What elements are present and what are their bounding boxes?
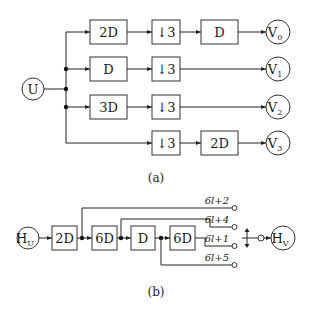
tap-label: 6l+2 bbox=[205, 195, 229, 206]
figure-b: HU 2D 6D D 6D 6l+2 6l+4 6l+1 6l+5 bbox=[16, 195, 295, 299]
block-label: 6D bbox=[173, 231, 192, 246]
downsampler-label: ↓3 bbox=[156, 25, 175, 40]
tap-label: 6l+4 bbox=[205, 214, 229, 225]
caption-b: (b) bbox=[147, 285, 164, 299]
downsampler-label: ↓3 bbox=[156, 62, 175, 77]
input-node-label: U bbox=[28, 82, 39, 97]
block-label: D bbox=[103, 62, 113, 77]
block-label: 3D bbox=[99, 100, 118, 115]
block-label: D bbox=[138, 231, 148, 246]
block-label: 6D bbox=[95, 231, 114, 246]
downsampler-label: ↓3 bbox=[156, 100, 175, 115]
tap-label: 6l+5 bbox=[205, 252, 229, 263]
branch-2: 3D ↓3 V2 bbox=[66, 95, 290, 119]
block-label: 2D bbox=[210, 136, 229, 151]
downsampler-label: ↓3 bbox=[156, 136, 175, 151]
input-node-u: U bbox=[22, 78, 44, 100]
block-label: 2D bbox=[99, 25, 118, 40]
caption-a: (a) bbox=[148, 171, 165, 185]
figure-a: U 2D ↓3 D V0 D ↓3 bbox=[22, 20, 290, 185]
block-label: D bbox=[214, 25, 224, 40]
tap-terminal bbox=[232, 263, 237, 268]
tap-terminal bbox=[232, 225, 237, 230]
tap-terminal bbox=[232, 244, 237, 249]
commutator-switch-icon bbox=[242, 228, 264, 248]
polyphase-diagram: U 2D ↓3 D V0 D ↓3 bbox=[0, 0, 312, 311]
tap-terminal bbox=[232, 206, 237, 211]
block-label: 2D bbox=[55, 231, 74, 246]
branch-0: 2D ↓3 D V0 bbox=[66, 20, 290, 44]
branch-1: D ↓3 V1 bbox=[66, 57, 290, 81]
tap-label: 6l+1 bbox=[205, 233, 229, 244]
branch-3: ↓3 2D V3 bbox=[66, 131, 290, 155]
junction-dot bbox=[64, 87, 68, 91]
